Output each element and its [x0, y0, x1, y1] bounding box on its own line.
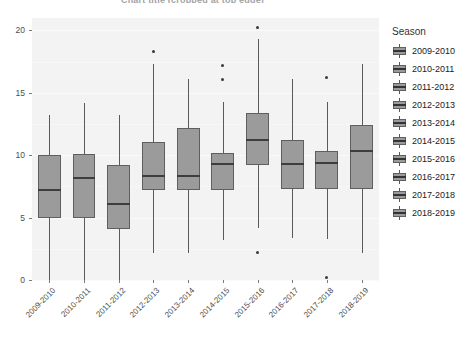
boxplot-chart: Chart title (cropped at top edge) 051015… — [0, 0, 476, 342]
legend-item-2012-2013[interactable]: 2012-2013 — [392, 96, 476, 114]
y-tick-label: 15 — [1, 89, 25, 97]
legend-key-icon — [392, 134, 407, 148]
legend-item-2010-2011[interactable]: 2010-2011 — [392, 60, 476, 78]
legend-key-icon — [392, 152, 407, 166]
legend-item-label: 2017-2018 — [412, 190, 455, 200]
legend: Season 2009-20102010-20112011-20122012-2… — [392, 26, 476, 222]
x-tick-mark — [362, 280, 363, 283]
box-iqr — [350, 125, 373, 189]
legend-key-icon — [392, 98, 407, 112]
y-tick-mark — [29, 155, 32, 156]
legend-item-label: 2011-2012 — [412, 82, 454, 92]
y-tick-mark — [29, 280, 32, 281]
legend-title: Season — [392, 26, 476, 37]
y-tick-mark — [29, 30, 32, 31]
legend-key-icon — [392, 188, 407, 202]
x-tick-mark — [153, 280, 154, 283]
legend-key-icon — [392, 170, 407, 184]
plot-panel — [32, 18, 379, 280]
legend-item-2013-2014[interactable]: 2013-2014 — [392, 114, 476, 132]
y-tick-label: 20 — [1, 26, 25, 34]
x-tick-mark — [119, 280, 120, 283]
legend-item-label: 2013-2014 — [412, 118, 455, 128]
x-tick-mark — [258, 280, 259, 283]
y-tick-label: 5 — [1, 214, 25, 222]
legend-item-label: 2009-2010 — [412, 46, 455, 56]
legend-item-label: 2016-2017 — [412, 172, 455, 182]
legend-item-2014-2015[interactable]: 2014-2015 — [392, 132, 476, 150]
legend-item-list: 2009-20102010-20112011-20122012-20132013… — [392, 42, 476, 222]
legend-item-2011-2012[interactable]: 2011-2012 — [392, 78, 476, 96]
y-tick-label: 0 — [1, 276, 25, 284]
x-tick-mark — [188, 280, 189, 283]
legend-item-label: 2010-2011 — [412, 64, 454, 74]
x-tick-mark — [327, 280, 328, 283]
x-tick-mark — [84, 280, 85, 283]
legend-key-icon — [392, 206, 407, 220]
legend-item-2015-2016[interactable]: 2015-2016 — [392, 150, 476, 168]
legend-item-2016-2017[interactable]: 2016-2017 — [392, 168, 476, 186]
legend-key-icon — [392, 80, 407, 94]
legend-item-label: 2018-2019 — [412, 208, 455, 218]
x-tick-mark — [223, 280, 224, 283]
y-tick-mark — [29, 93, 32, 94]
legend-item-label: 2014-2015 — [412, 136, 455, 146]
y-tick-mark — [29, 218, 32, 219]
legend-item-2017-2018[interactable]: 2017-2018 — [392, 186, 476, 204]
legend-item-2018-2019[interactable]: 2018-2019 — [392, 204, 476, 222]
boxplot-box-2018-2019 — [32, 18, 379, 280]
x-tick-mark — [49, 280, 50, 283]
legend-item-label: 2012-2013 — [412, 100, 455, 110]
median-line — [350, 150, 373, 152]
legend-item-2009-2010[interactable]: 2009-2010 — [392, 42, 476, 60]
x-tick-mark — [292, 280, 293, 283]
legend-key-icon — [392, 44, 407, 58]
y-tick-label: 10 — [1, 151, 25, 159]
legend-key-icon — [392, 62, 407, 76]
legend-key-icon — [392, 116, 407, 130]
legend-item-label: 2015-2016 — [412, 154, 455, 164]
chart-title: Chart title (cropped at top edge) — [0, 0, 385, 3]
